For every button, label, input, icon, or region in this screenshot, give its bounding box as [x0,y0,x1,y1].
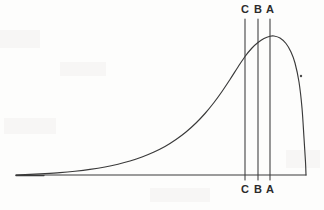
density-curve-layer [16,36,306,175]
marker-top-label-A: A [263,4,277,15]
marker-bottom-label-C: C [238,184,252,195]
density-curve [16,36,306,175]
marker-lines-layer [245,19,270,180]
baseline-layer [16,175,306,176]
marker-bottom-label-A: A [263,184,277,195]
stray-dot-icon [300,75,302,77]
figure-root: C B A C B A [0,0,324,210]
marker-top-label-C: C [238,4,252,15]
distribution-chart [0,0,324,210]
